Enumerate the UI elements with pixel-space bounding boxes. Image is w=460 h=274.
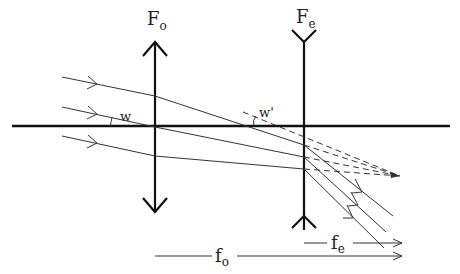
fe-label-main: f [331, 232, 338, 253]
eyepiece-label: Fe [296, 8, 316, 30]
fe-label-subscript: e [338, 242, 345, 256]
objective-label: Fo [147, 10, 167, 32]
focal-point-arrow-icon [390, 172, 400, 178]
focal-length-fe-label: fe [331, 234, 345, 255]
diagram-canvas [0, 0, 460, 274]
angle-w-arc [110, 117, 112, 126]
fo-label-subscript: o [222, 255, 229, 269]
eyepiece-label-subscript: e [309, 17, 316, 31]
focal-length-fe-arrow [304, 239, 402, 247]
telescope-ray-diagram: Fo Fe w w' fe fo [0, 0, 460, 274]
converging-rays [155, 96, 304, 169]
incident-rays [62, 76, 155, 156]
emergent-rays [304, 145, 393, 248]
fo-label-main: f [215, 245, 222, 266]
virtual-ray-extensions [243, 112, 400, 176]
objective-label-main: F [147, 8, 160, 29]
focal-length-fo-arrow [155, 252, 402, 260]
focal-length-fo-label: fo [215, 247, 229, 268]
angle-w-label: w [120, 110, 131, 123]
angle-w-prime-label: w' [259, 106, 274, 119]
eyepiece-label-main: F [296, 6, 309, 27]
objective-label-subscript: o [160, 19, 167, 33]
eyepiece-lens [292, 30, 316, 230]
